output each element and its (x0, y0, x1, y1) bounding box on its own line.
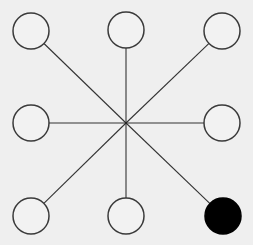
node-top-right (204, 13, 240, 49)
node-middle-right (204, 105, 240, 141)
node-bottom-center (108, 198, 144, 234)
node-bottom-left (13, 198, 49, 234)
hub-point (125, 122, 127, 124)
node-bottom-right-filled (205, 198, 241, 234)
node-top-center (108, 12, 144, 48)
star-diagram (0, 0, 253, 245)
node-middle-left (13, 105, 49, 141)
node-top-left (13, 13, 49, 49)
